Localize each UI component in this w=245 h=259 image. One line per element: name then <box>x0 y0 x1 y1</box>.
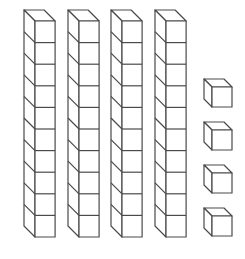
unit-cube <box>204 208 232 236</box>
tens-rod <box>24 10 55 237</box>
base-ten-blocks-diagram: 44 <box>0 0 245 259</box>
front-face <box>212 216 232 236</box>
tens-rod <box>111 10 142 237</box>
unit-cube <box>204 122 232 150</box>
unit-cube <box>204 165 232 193</box>
front-face <box>212 87 232 107</box>
unit-cube <box>204 79 232 107</box>
front-face <box>212 173 232 193</box>
tens-rod <box>68 10 99 237</box>
blocks-canvas <box>0 0 245 259</box>
front-face <box>212 130 232 150</box>
tens-rod <box>155 10 186 237</box>
